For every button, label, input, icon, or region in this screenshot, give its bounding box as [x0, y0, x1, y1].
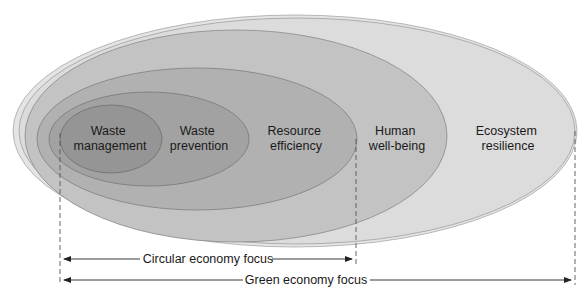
label-circular-economy-focus: Circular economy focus [143, 252, 274, 266]
label-human-well-being: Human well-being [368, 124, 425, 153]
nested-ellipse-diagram: Waste management Waste prevention Resour… [0, 0, 588, 299]
label-green-economy-focus: Green economy focus [245, 273, 367, 287]
label-resource-efficiency: Resource efficiency [268, 124, 325, 153]
label-ecosystem-resilience: Ecosystem resilience [476, 124, 541, 153]
